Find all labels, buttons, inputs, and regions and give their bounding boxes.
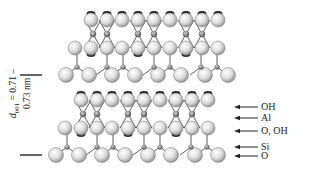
arrow-icon: [234, 116, 258, 120]
hydroxyl-atom: [84, 13, 98, 27]
oxygen-atom: [82, 68, 97, 83]
aluminum-atom: [173, 111, 179, 117]
oxygen-atom: [221, 68, 236, 83]
oxygen-hydroxyl-atom: [74, 121, 88, 135]
hydroxyl-atom: [121, 93, 135, 107]
hydroxyl-atom: [115, 13, 129, 27]
d-spacing-line2: 0.73 nm: [22, 69, 32, 118]
oxygen-atom: [151, 68, 166, 83]
aluminum-atom: [199, 31, 205, 37]
oxygen-hydroxyl-atom: [58, 121, 72, 135]
arrow-icon: [234, 145, 258, 149]
hydroxyl-atom: [195, 13, 209, 27]
oxygen-hydroxyl-atom: [115, 41, 129, 55]
silicon-atom: [188, 144, 193, 149]
aluminum-atom: [141, 111, 147, 117]
silicon-atom: [141, 144, 146, 149]
silicon-atom: [167, 64, 172, 69]
arrow-icon: [234, 154, 258, 158]
layer-label: O: [261, 151, 268, 161]
hydroxyl-atom: [105, 93, 119, 107]
layer-label: O, OH: [261, 126, 288, 136]
silicon-atom: [151, 64, 156, 69]
hydroxyl-atom: [163, 13, 177, 27]
oxygen-atom: [59, 68, 74, 83]
aluminum-atom: [183, 31, 189, 37]
oxygen-atom: [49, 148, 64, 163]
arrow-icon: [234, 129, 258, 133]
hydroxyl-atom: [169, 93, 183, 107]
hydroxyl-atom: [74, 93, 88, 107]
hydroxyl-atom: [100, 13, 114, 27]
aluminum-atom: [135, 31, 141, 37]
oxygen-hydroxyl-atom: [84, 41, 98, 55]
oxygen-atom: [118, 148, 133, 163]
silicon-atom: [110, 144, 115, 149]
oxygen-hydroxyl-atom: [137, 121, 151, 135]
oxygen-hydroxyl-atom: [153, 121, 167, 135]
aluminum-atom: [125, 111, 131, 117]
oxygen-hydroxyl-atom: [68, 41, 82, 55]
oxygen-atom: [72, 148, 87, 163]
hydroxyl-atom: [201, 93, 215, 107]
oxygen-hydroxyl-atom: [105, 121, 119, 135]
silicon-atom: [198, 64, 203, 69]
arrow-icon: [234, 105, 258, 109]
oxygen-hydroxyl-atom: [185, 121, 199, 135]
oxygen-hydroxyl-atom: [163, 41, 177, 55]
oxygen-hydroxyl-atom: [201, 121, 215, 135]
silicon-atom: [120, 64, 125, 69]
kaolinite-layer: [49, 91, 226, 163]
d-spacing-label: d001 = 0.71 – 0.73 nm: [8, 69, 32, 118]
oxygen-atom: [105, 68, 120, 83]
oxygen-atom: [164, 148, 179, 163]
silicon-atom: [214, 64, 219, 69]
silicon-atom: [74, 64, 79, 69]
oxygen-atom: [188, 148, 203, 163]
d-spacing-line1: d001 = 0.71 –: [8, 69, 22, 118]
oxygen-atom: [211, 148, 226, 163]
hydroxyl-atom: [147, 13, 161, 27]
oxygen-atom: [95, 148, 110, 163]
aluminum-atom: [189, 111, 195, 117]
silicon-atom: [157, 144, 162, 149]
oxygen-hydroxyl-atom: [211, 41, 225, 55]
silicon-atom: [204, 144, 209, 149]
hydroxyl-atom: [131, 13, 145, 27]
hydroxyl-atom: [90, 93, 104, 107]
aluminum-atom: [151, 31, 157, 37]
oxygen-hydroxyl-atom: [169, 121, 183, 135]
oxygen-atom: [141, 148, 156, 163]
hydroxyl-atom: [153, 93, 167, 107]
aluminum-atom: [104, 31, 110, 37]
oxygen-atom: [198, 68, 213, 83]
oxygen-hydroxyl-atom: [147, 41, 161, 55]
layer-label: OH: [261, 102, 275, 112]
aluminum-atom: [90, 31, 96, 37]
oxygen-hydroxyl-atom: [179, 41, 193, 55]
hydroxyl-atom: [211, 13, 225, 27]
oxygen-atom: [174, 68, 189, 83]
oxygen-atom: [128, 68, 143, 83]
hydroxyl-atom: [137, 93, 151, 107]
oxygen-hydroxyl-atom: [100, 41, 114, 55]
kaolinite-structure-diagram: d001 = 0.71 – 0.73 nm OHAlO, OHSiO: [0, 0, 309, 171]
oxygen-hydroxyl-atom: [195, 41, 209, 55]
oxygen-hydroxyl-atom: [121, 121, 135, 135]
hydroxyl-atom: [185, 93, 199, 107]
kaolinite-layer: [59, 11, 236, 83]
silicon-atom: [64, 144, 69, 149]
silicon-atom: [104, 64, 109, 69]
layer-label: Al: [261, 113, 271, 123]
silicon-atom: [94, 144, 99, 149]
oxygen-hydroxyl-atom: [90, 121, 104, 135]
hydroxyl-atom: [179, 13, 193, 27]
aluminum-atom: [94, 111, 100, 117]
oxygen-hydroxyl-atom: [131, 41, 145, 55]
aluminum-atom: [80, 111, 86, 117]
